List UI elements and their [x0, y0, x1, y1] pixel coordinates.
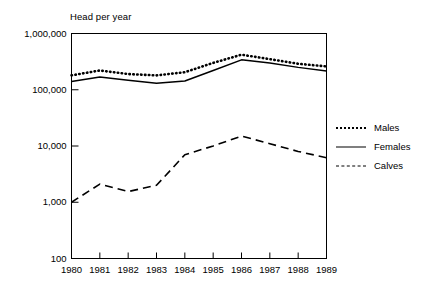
x-axis-tick-label: 1983 — [141, 265, 173, 275]
x-axis-tick-label: 1989 — [311, 265, 343, 275]
x-axis-tick-label: 1984 — [169, 265, 201, 275]
y-axis-tick-label: 100 — [7, 254, 67, 264]
x-axis-tick-label: 1988 — [282, 265, 314, 275]
chart-legend: Males Females Calves — [336, 118, 432, 175]
legend-label-calves: Calves — [374, 161, 403, 171]
y-axis-tick-label: 100,000 — [7, 85, 67, 95]
x-axis-tick-label: 1980 — [56, 265, 88, 275]
legend-item-males[interactable]: Males — [336, 118, 432, 137]
x-axis-tick-label: 1987 — [254, 265, 286, 275]
series-line-males — [72, 55, 327, 76]
legend-swatch-dotted-icon — [336, 123, 366, 133]
y-axis-tick-label: 10,000 — [7, 141, 67, 151]
y-axis-ticks — [72, 34, 79, 259]
legend-item-calves[interactable]: Calves — [336, 156, 432, 175]
series-line-calves — [72, 136, 327, 202]
x-axis-ticks — [100, 253, 298, 259]
legend-swatch-dashed-icon — [336, 161, 366, 171]
chart-container: Head per year 1,000,000100,00010,0001,00… — [0, 0, 433, 295]
y-axis-tick-label: 1,000 — [7, 197, 67, 207]
data-series-group — [72, 55, 327, 203]
y-axis-title: Head per year — [70, 11, 132, 22]
x-axis-tick-label: 1982 — [112, 265, 144, 275]
x-axis-tick-label: 1986 — [226, 265, 258, 275]
legend-label-males: Males — [374, 123, 399, 133]
legend-item-females[interactable]: Females — [336, 137, 432, 156]
y-axis-tick-label: 1,000,000 — [7, 29, 67, 39]
legend-swatch-solid-icon — [336, 142, 366, 152]
x-axis-tick-label: 1985 — [197, 265, 229, 275]
legend-label-females: Females — [374, 142, 410, 152]
x-axis-tick-label: 1981 — [84, 265, 116, 275]
